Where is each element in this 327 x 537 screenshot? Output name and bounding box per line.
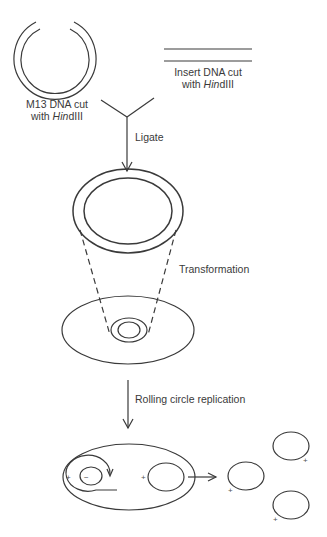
m13-label-prefix: with [31, 110, 53, 122]
plus-sign-released-3: + [273, 516, 278, 524]
m13-label: M13 DNA cut with HindIII [22, 98, 92, 122]
plus-sign-left: + [66, 474, 71, 482]
transformation-label: Transformation [179, 263, 249, 275]
minus-sign: − [84, 474, 89, 482]
join-left [101, 100, 127, 117]
m13-outer-arc [14, 22, 96, 99]
m13-inner-arc [21, 29, 89, 94]
host-cell [62, 296, 194, 364]
plus-circle-in-cell [148, 463, 184, 491]
recombinant-inner [84, 178, 172, 244]
plus-sign-released-2: + [303, 457, 308, 465]
insert-label-line2: with HindIII [168, 78, 248, 90]
diagram-canvas [0, 0, 327, 537]
rolling-circle-label: Rolling circle replication [135, 393, 245, 405]
projection-right [148, 230, 176, 335]
m13-label-line2: with HindIII [22, 110, 92, 122]
insert-label-italic: Hin [204, 78, 220, 90]
released-circle-1 [228, 462, 264, 490]
recombinant-outer [73, 169, 183, 253]
plus-sign-inner: + [141, 474, 146, 482]
insert-label-suffix: dIII [219, 78, 234, 90]
m13-label-line1: M13 DNA cut [22, 98, 92, 110]
projection-left [80, 230, 110, 335]
plus-sign-released-1: + [228, 487, 233, 495]
replicating-cell [63, 444, 195, 510]
insert-label-prefix: with [182, 78, 204, 90]
m13-label-italic: Hin [53, 110, 69, 122]
cell-plasmid-inner [118, 322, 140, 338]
released-circle-3 [273, 491, 309, 519]
join-right [127, 98, 154, 117]
ligate-label: Ligate [135, 131, 164, 143]
insert-label: Insert DNA cut with HindIII [168, 66, 248, 90]
m13-label-suffix: dIII [68, 110, 83, 122]
insert-label-line1: Insert DNA cut [168, 66, 248, 78]
